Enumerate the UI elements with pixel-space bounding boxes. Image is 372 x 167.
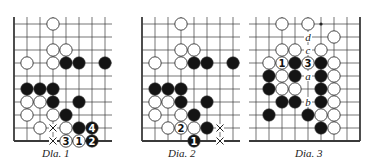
white-stone-icon xyxy=(276,83,288,95)
point-label-a: a xyxy=(305,70,311,82)
white-stone-icon xyxy=(263,57,275,69)
white-stone-icon xyxy=(328,96,340,108)
black-stone-icon xyxy=(315,57,327,69)
black-stone-icon xyxy=(315,70,327,82)
white-stone-icon xyxy=(276,70,288,82)
white-stone-icon xyxy=(328,83,340,95)
white-stone-icon xyxy=(328,109,340,121)
black-stone-icon xyxy=(289,70,301,82)
white-stone-icon xyxy=(328,70,340,82)
black-stone-icon xyxy=(276,96,288,108)
white-stone-icon xyxy=(289,44,301,56)
point-label-b: b xyxy=(305,96,311,108)
white-stone-icon xyxy=(315,44,327,56)
white-stone-icon xyxy=(289,83,301,95)
black-stone-icon xyxy=(289,57,301,69)
white-stone-icon xyxy=(328,57,340,69)
white-stone-icon xyxy=(315,109,327,121)
white-stone-icon xyxy=(302,18,314,30)
white-stone-icon xyxy=(276,44,288,56)
black-stone-icon xyxy=(302,109,314,121)
caption-dia-3: Dia. 3 xyxy=(295,147,323,159)
point-label-c: c xyxy=(306,44,311,56)
black-stone-icon xyxy=(263,109,275,121)
go-board-3: dcab13 xyxy=(0,0,372,167)
white-stone-icon xyxy=(328,122,340,134)
black-stone-icon xyxy=(289,96,301,108)
black-stone-icon xyxy=(315,96,327,108)
black-stone-icon xyxy=(263,83,275,95)
black-stone-icon xyxy=(263,70,275,82)
white-stone-icon xyxy=(328,31,340,43)
move-number-1: 1 xyxy=(279,58,286,69)
white-stone-icon xyxy=(276,18,288,30)
move-number-3: 3 xyxy=(305,58,312,69)
star-point-icon xyxy=(319,22,322,25)
point-label-d: d xyxy=(305,31,311,43)
black-stone-icon xyxy=(315,122,327,134)
black-stone-icon xyxy=(315,83,327,95)
